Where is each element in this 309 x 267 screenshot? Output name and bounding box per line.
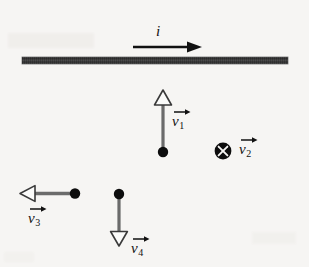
velocity-label-v1: v1 bbox=[172, 108, 191, 129]
velocity-vector-v4 bbox=[109, 186, 131, 248]
velocity-label-v4: v4 bbox=[131, 235, 150, 256]
paper-artifact bbox=[8, 33, 94, 48]
velocity-label-v2: v2 bbox=[239, 136, 258, 157]
vector-accent-icon bbox=[132, 235, 150, 242]
velocity-label-v3: v3 bbox=[28, 205, 47, 226]
into-page-symbol-v2 bbox=[213, 141, 233, 161]
vector-accent-icon bbox=[29, 205, 47, 212]
paper-artifact bbox=[252, 232, 296, 244]
current-carrying-wire bbox=[22, 57, 288, 64]
current-direction-arrow bbox=[131, 40, 203, 54]
velocity-label-v3-text: v3 bbox=[28, 211, 47, 226]
velocity-vector-v3 bbox=[18, 184, 82, 204]
current-label: i bbox=[156, 24, 160, 39]
vector-accent-icon bbox=[240, 136, 258, 143]
velocity-label-v1-text: v1 bbox=[172, 114, 191, 129]
physics-figure: i v1 v2 bbox=[0, 0, 309, 267]
velocity-label-v4-text: v4 bbox=[131, 241, 150, 256]
paper-artifact bbox=[4, 252, 34, 262]
vector-accent-icon bbox=[173, 108, 191, 115]
velocity-label-v2-text: v2 bbox=[239, 142, 258, 157]
